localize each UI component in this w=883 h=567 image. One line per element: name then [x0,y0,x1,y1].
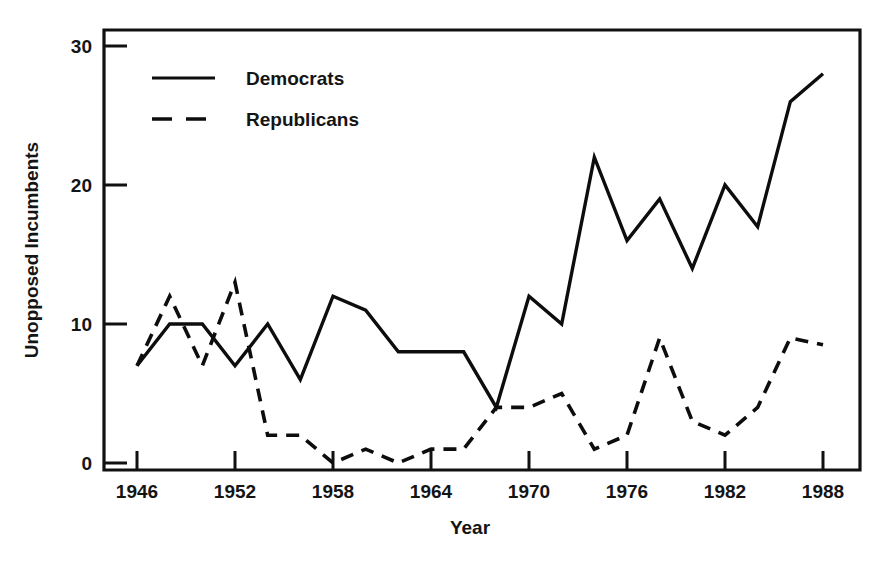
y-axis-title: Unopposed Incumbents [21,142,42,358]
x-tick-label: 1970 [508,481,550,502]
x-axis-ticks [137,451,823,470]
legend-label-democrats: Democrats [246,68,344,89]
plot-frame [104,30,860,470]
x-tick-label: 1946 [116,481,158,502]
series-line-democrats [137,74,823,408]
series-line-republicans [137,282,823,463]
x-tick-label: 1982 [704,481,746,502]
x-axis-tick-labels: 1946 1952 1958 1964 1970 1976 1982 1988 [116,481,844,502]
x-tick-label: 1988 [802,481,844,502]
y-tick-label: 0 [81,453,92,474]
legend-label-republicans: Republicans [246,109,359,130]
line-chart-svg: 30 20 10 0 Unopposed Incumbents 1946 195… [0,0,883,567]
y-axis-ticks [104,46,127,463]
x-tick-label: 1952 [214,481,256,502]
x-tick-label: 1964 [410,481,453,502]
x-axis-title: Year [450,517,491,538]
x-tick-label: 1976 [606,481,648,502]
y-axis-tick-labels: 30 20 10 0 [71,36,92,474]
series-group [137,74,823,463]
chart-figure: 30 20 10 0 Unopposed Incumbents 1946 195… [0,0,883,567]
legend: Democrats Republicans [152,68,359,130]
y-tick-label: 20 [71,175,92,196]
x-tick-label: 1958 [312,481,354,502]
y-tick-label: 30 [71,36,92,57]
y-tick-label: 10 [71,314,92,335]
